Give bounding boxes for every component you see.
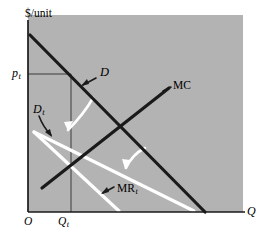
economics-diagram: $/unit pt D Dt MC MRt O Qt Q bbox=[0, 0, 266, 240]
diagram-canvas bbox=[0, 0, 266, 240]
